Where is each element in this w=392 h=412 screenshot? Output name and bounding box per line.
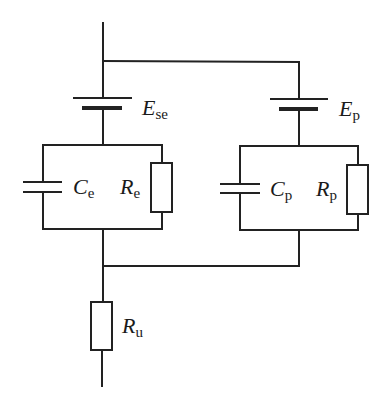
battery-left-ese: Ese xyxy=(73,95,168,145)
label-rp: Rp xyxy=(315,176,337,203)
label-re: Re xyxy=(119,174,140,201)
label-ru: Ru xyxy=(121,313,143,340)
label-ep: Ep xyxy=(338,96,360,123)
label-cp: Cp xyxy=(270,176,292,203)
rejoin-wire xyxy=(103,229,299,302)
top-terminal-wire xyxy=(103,23,299,99)
capacitor-ce xyxy=(23,182,62,192)
resistor-ru-branch: Ru xyxy=(91,302,143,386)
resistor-rp xyxy=(347,165,368,214)
left-rc-block: Ce Re xyxy=(23,145,172,229)
battery-right-ep: Ep xyxy=(270,96,360,146)
capacitor-cp xyxy=(220,184,260,193)
resistor-ru xyxy=(91,302,112,350)
circuit-diagram: Ese Ep Ce Re xyxy=(0,0,392,412)
label-ese: Ese xyxy=(141,95,168,122)
label-ce: Ce xyxy=(73,174,95,201)
resistor-re xyxy=(151,163,172,212)
right-rc-block: Cp Rp xyxy=(220,146,368,230)
